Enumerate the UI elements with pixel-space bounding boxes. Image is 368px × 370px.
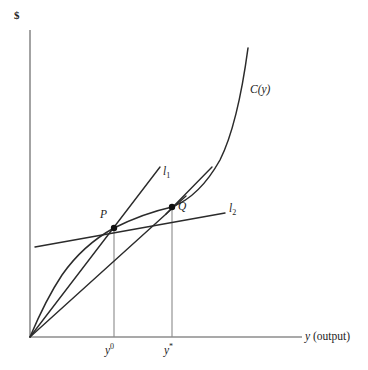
ray-through-q-line xyxy=(30,196,186,337)
cost-curve-figure: $ y (output) C(y) P Q l1 l2 y0 y* xyxy=(0,0,368,370)
y-axis-label: $ xyxy=(14,10,20,21)
line-l1-subscript: 1 xyxy=(166,171,170,180)
cost-curve-plot xyxy=(0,0,368,370)
point-q-marker xyxy=(169,204,175,210)
tick-label-ystar: y* xyxy=(164,343,173,356)
line-l2-subscript: 2 xyxy=(232,208,236,217)
point-q-label: Q xyxy=(178,201,186,213)
x-axis-unit: (output) xyxy=(313,330,350,342)
ray-through-p-line xyxy=(30,167,160,337)
tick-y0-superscript: 0 xyxy=(110,342,114,351)
point-p-label: P xyxy=(100,209,107,221)
tick-ystar-superscript: * xyxy=(169,342,173,351)
tick-label-y0: y0 xyxy=(105,343,114,356)
x-axis-label: y (output) xyxy=(305,331,350,343)
line-l1-label: l1 xyxy=(163,166,170,180)
cost-curve-label: C(y) xyxy=(250,84,270,96)
point-p-marker xyxy=(111,225,117,231)
line-l2-label: l2 xyxy=(229,203,236,217)
tangent-at-p-line xyxy=(35,213,225,247)
